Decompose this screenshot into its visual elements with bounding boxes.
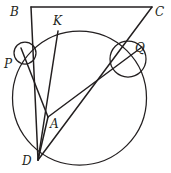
segment-kd [38, 31, 58, 160]
segment-cd [38, 7, 152, 160]
segment-aq [48, 47, 142, 117]
geometry-figure: B C K P Q A D [0, 0, 171, 173]
label-a: A [50, 118, 59, 130]
label-c: C [155, 6, 164, 18]
label-p: P [4, 58, 12, 70]
label-k: K [53, 15, 62, 27]
label-d: D [22, 155, 32, 167]
label-q: Q [135, 42, 145, 54]
figure-canvas [0, 0, 171, 173]
label-b: B [10, 6, 19, 18]
